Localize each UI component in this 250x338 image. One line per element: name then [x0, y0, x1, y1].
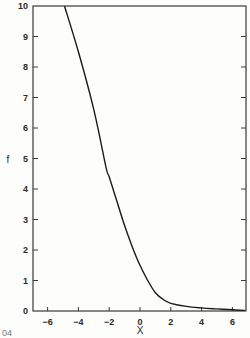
x-tick-label: 6 — [230, 317, 235, 327]
y-tick-label: 8 — [23, 62, 28, 72]
y-axis-ticks: 012345678910 — [18, 1, 246, 316]
y-tick-label: 9 — [23, 32, 28, 42]
y-tick-label: 4 — [23, 184, 28, 194]
y-tick-label: 6 — [23, 123, 28, 133]
x-tick-label: 2 — [168, 317, 173, 327]
x-axis-title: X — [137, 325, 144, 336]
y-tick-label: 2 — [23, 245, 28, 255]
x-tick-label: −6 — [42, 317, 52, 327]
chart-canvas: 012345678910 −6−4−20246 X f — [0, 0, 250, 338]
data-line — [65, 6, 245, 310]
y-tick-label: 1 — [23, 276, 28, 286]
y-tick-label: 3 — [23, 215, 28, 225]
y-tick-label: 5 — [23, 154, 28, 164]
y-tick-label: 0 — [23, 306, 28, 316]
x-tick-label: −2 — [104, 317, 114, 327]
x-tick-label: 4 — [199, 317, 204, 327]
x-axis-ticks: −6−4−20246 — [42, 307, 234, 327]
y-tick-label: 7 — [23, 93, 28, 103]
y-tick-label: 10 — [18, 1, 28, 11]
x-tick-label: −4 — [73, 317, 83, 327]
figure-number: 04 — [2, 328, 12, 338]
y-axis-title: f — [7, 154, 10, 165]
